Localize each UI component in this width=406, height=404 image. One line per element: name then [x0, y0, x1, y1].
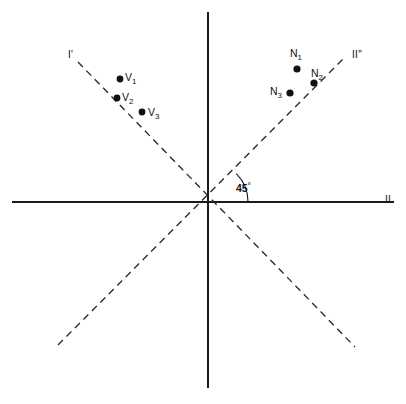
- figure-canvas: I' II" II 45° V1 V2 V3 N1 N2 N3: [0, 0, 406, 404]
- point-label-n3-base: N: [270, 85, 278, 97]
- data-point-v2: [114, 95, 121, 102]
- angle-value: 45: [236, 182, 248, 194]
- point-label-v2-sub: 2: [129, 97, 133, 106]
- point-label-v1-base: V: [125, 71, 132, 83]
- diagram-svg: [0, 0, 406, 404]
- data-point-n2: [310, 79, 317, 86]
- data-point-n1: [293, 65, 300, 72]
- point-label-n1-base: N: [290, 47, 298, 59]
- data-points-group: [114, 65, 318, 115]
- data-point-v1: [117, 76, 124, 83]
- point-label-v3: V3: [148, 107, 159, 118]
- axis-label-diagonal-upper-left: I': [68, 50, 73, 60]
- point-label-v2: V2: [122, 92, 133, 103]
- diagonal-nw-se-line: [78, 62, 355, 347]
- point-label-v3-sub: 3: [155, 112, 159, 121]
- point-label-n3: N3: [270, 86, 282, 97]
- point-label-n2-base: N: [311, 67, 319, 79]
- point-label-n2: N2: [311, 68, 323, 79]
- point-label-v2-base: V: [122, 91, 129, 103]
- angle-label-45: 45°: [236, 183, 251, 194]
- axis-label-horizontal-right: II: [385, 195, 391, 205]
- point-label-v3-base: V: [148, 106, 155, 118]
- data-point-v3: [139, 109, 146, 116]
- degree-symbol: °: [248, 182, 251, 189]
- point-label-v1: V1: [125, 72, 136, 83]
- point-label-v1-sub: 1: [132, 77, 136, 86]
- point-label-n1: N1: [290, 48, 302, 59]
- data-point-n3: [286, 89, 293, 96]
- point-label-n2-sub: 2: [319, 73, 323, 82]
- point-label-n1-sub: 1: [298, 53, 302, 62]
- axis-label-diagonal-upper-right: II": [352, 50, 362, 60]
- point-label-n3-sub: 3: [278, 91, 282, 100]
